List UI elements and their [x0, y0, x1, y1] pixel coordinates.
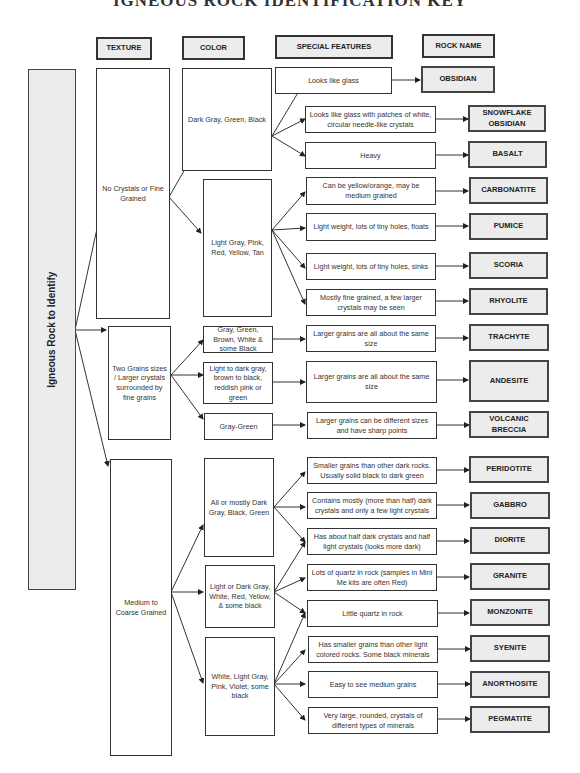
feature-yellow-orange: Can be yellow/orange, may be medium grai…: [306, 177, 436, 205]
color-light-to-dark-gray: Light to dark gray, brown to black, redd…: [203, 362, 273, 404]
root-label: Igneous Rock to Identify: [45, 271, 59, 387]
feature-lots-quartz: Lots of quartz in rock (samples in Mini …: [307, 564, 437, 591]
feature-smaller-light: Has smaller grains than other light colo…: [308, 636, 438, 663]
feature-different-sizes: Larger grains can be different sizes and…: [307, 412, 437, 439]
rock-volcanic-breccia: VOLCANIC BRECCIA: [469, 411, 549, 438]
header-texture: TEXTURE: [96, 37, 152, 60]
rock-pumice: PUMICE: [469, 213, 548, 240]
feature-mostly-fine: Mostly fine grained, a few larger crysta…: [306, 289, 436, 316]
feature-half-dark: Has about half dark crystals and half li…: [307, 528, 437, 555]
feature-very-large: Very large, rounded, crystals of differe…: [308, 707, 438, 734]
feature-floats: Light weight, lots of tiny holes, floats: [306, 213, 436, 241]
feature-same-size-1: Larger grains are all about the same siz…: [306, 325, 436, 352]
header-color: COLOR: [182, 36, 245, 60]
rock-pegmatite: PEGMATITE: [470, 706, 550, 733]
rock-snowflake-obsidian: SNOWFLAKE OBSIDIAN: [468, 105, 546, 132]
rock-monzonite: MONZONITE: [470, 599, 550, 626]
texture-no-crystals: No Crystals or Fine Grained: [96, 68, 170, 319]
feature-same-size-2: Larger grains are all about the same siz…: [306, 361, 437, 403]
color-light-gray-pink-red: Light Gray, Pink, Red, Yellow, Tan: [203, 179, 272, 317]
rock-andesite: ANDESITE: [469, 360, 549, 402]
rock-obsidian: OBSIDIAN: [421, 66, 495, 93]
rock-syenite: SYENITE: [470, 635, 550, 662]
rock-basalt: BASALT: [468, 141, 547, 168]
root-igneous-rock-box: Igneous Rock to Identify: [28, 69, 76, 590]
rock-peridotite: PERIDOTITE: [469, 456, 549, 483]
color-gray-green-brown: Gray, Green, Brown, White & some Black: [203, 326, 273, 353]
feature-medium-grains: Easy to see medium grains: [308, 671, 438, 698]
header-rock-name: ROCK NAME: [422, 34, 495, 58]
rock-trachyte: TRACHYTE: [469, 324, 549, 351]
feature-looks-like-glass: Looks like glass: [275, 67, 392, 94]
feature-sinks: Light weight, lots of tiny holes, sinks: [306, 253, 436, 280]
color-dark-gray-green-black: Dark Gray, Green, Black: [182, 68, 272, 171]
texture-two-grain-sizes: Two Grains sizes / Larger crystals surro…: [108, 326, 171, 440]
rock-rhyolite: RHYOLITE: [469, 288, 548, 315]
rock-granite: GRANITE: [470, 563, 550, 590]
color-light-or-dark-gray: Light or Dark Gray, White, Red, Yellow, …: [205, 565, 275, 628]
color-gray-green: Gray-Green: [204, 413, 273, 440]
feature-little-quartz: Little quartz in rock: [307, 600, 438, 627]
texture-medium-coarse: Medium to Coarse Grained: [110, 459, 172, 756]
rock-gabbro: GABBRO: [470, 492, 550, 519]
rock-carbonatite: CARBONATITE: [469, 177, 548, 204]
feature-mostly-dark: Contains mostly (more than half) dark cr…: [307, 492, 437, 519]
rock-anorthosite: ANORTHOSITE: [470, 671, 550, 698]
color-all-mostly-dark: All or mostly Dark Gray, Black, Green: [204, 458, 274, 557]
rock-scoria: SCORIA: [469, 252, 548, 279]
feature-glass-with-patches: Looks like glass with patches of white, …: [305, 106, 436, 133]
feature-smaller-dark: Smaller grains than other dark rocks. Us…: [307, 457, 437, 484]
feature-heavy: Heavy: [305, 142, 436, 169]
color-white-light-gray-pink: White, Light Gray, Pink, Violet, some bl…: [205, 637, 275, 736]
rock-diorite: DIORITE: [470, 527, 550, 554]
header-special-features: SPECIAL FEATURES: [275, 35, 393, 59]
